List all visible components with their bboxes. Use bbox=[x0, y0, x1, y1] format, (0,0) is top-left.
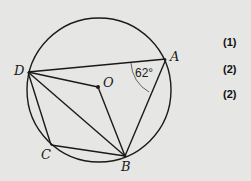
segment-OB bbox=[98, 87, 125, 156]
label-point-B: B bbox=[120, 159, 131, 174]
vertex-point-B bbox=[124, 155, 127, 158]
segment-DC bbox=[28, 72, 51, 145]
angle-label-A: 62° bbox=[135, 66, 153, 80]
marks-column: (1) (2) (2) bbox=[223, 0, 251, 181]
label-point-D: D bbox=[13, 63, 25, 78]
segment-DO bbox=[28, 72, 98, 87]
label-point-A: A bbox=[169, 49, 179, 64]
center-point-O bbox=[96, 85, 100, 89]
circle-geometry-diagram: A B C D O 62° bbox=[0, 0, 251, 181]
label-point-O: O bbox=[103, 75, 114, 90]
mark-part-3: (2) bbox=[223, 88, 236, 100]
mark-part-1: (1) bbox=[223, 36, 236, 48]
mark-part-2: (2) bbox=[223, 63, 236, 75]
label-point-C: C bbox=[41, 147, 51, 162]
